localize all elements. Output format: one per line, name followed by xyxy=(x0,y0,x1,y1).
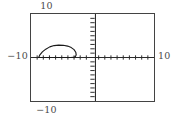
plot-frame xyxy=(30,13,155,102)
axis-label-right: 10 xyxy=(158,51,177,61)
axis-label-bottom: −10 xyxy=(0,105,177,115)
plotted-curve xyxy=(39,45,77,57)
plot-area xyxy=(31,14,154,101)
axis-label-top: 10 xyxy=(0,1,177,11)
axis-label-left: −10 xyxy=(2,51,28,61)
graphing-calculator-screenshot: 10 −10 −10 10 xyxy=(0,0,177,126)
graph-canvas xyxy=(31,14,154,101)
